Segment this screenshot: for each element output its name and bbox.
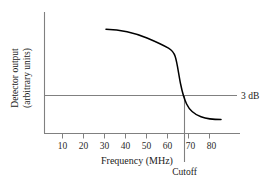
three-db-label: 3 dB <box>241 91 259 101</box>
y-axis-title-line1: Detector output <box>10 48 20 108</box>
x-tick-label-50: 50 <box>142 141 152 151</box>
cutoff-label: Cutoff <box>172 167 197 177</box>
frequency-response-chart: 10 20 30 40 50 60 70 80 3 dB Cutoff Dete… <box>0 0 275 184</box>
x-tick-label-40: 40 <box>121 141 131 151</box>
chart-figure: 10 20 30 40 50 60 70 80 3 dB Cutoff Dete… <box>0 0 275 184</box>
x-tick-label-10: 10 <box>58 141 68 151</box>
x-tick-label-20: 20 <box>79 141 89 151</box>
x-tick-label-70: 70 <box>186 141 196 151</box>
x-tick-label-60: 60 <box>163 141 173 151</box>
x-tick-label-80: 80 <box>207 141 217 151</box>
y-axis-title: Detector output (arbitrary units) <box>10 48 33 108</box>
x-tick-label-30: 30 <box>100 141 110 151</box>
y-axis-title-line2: (arbitrary units) <box>22 48 33 108</box>
x-axis-title: Frequency (MHz) <box>101 155 173 167</box>
